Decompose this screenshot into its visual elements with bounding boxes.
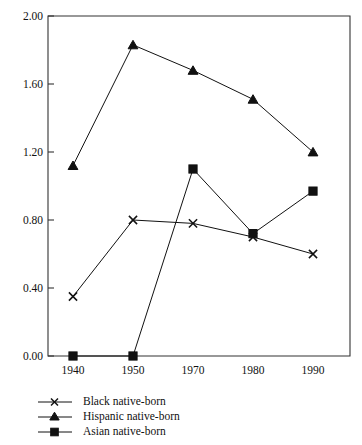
- data-point: [129, 352, 137, 360]
- data-point: [249, 230, 257, 238]
- x-axis-label-1950: 1950: [122, 364, 145, 376]
- square-marker-icon: [249, 230, 257, 238]
- legend-label-asian: Asian native-born: [83, 425, 166, 437]
- legend-label-hispanic: Hispanic native-born: [83, 410, 180, 423]
- x-axis-label-1990: 1990: [302, 364, 325, 376]
- square-marker-icon: [129, 352, 137, 360]
- square-marker-icon: [309, 187, 317, 195]
- line-chart-figure: 2.00 1.60 1.20 0.80 0.40 0.00 1940 1950 …: [0, 0, 362, 445]
- y-axis-label-1-60: 1.60: [23, 78, 43, 90]
- y-axis-label-0-80: 0.80: [23, 214, 43, 226]
- x-axis-label-1980: 1980: [242, 364, 265, 376]
- square-marker-icon: [69, 352, 77, 360]
- data-point: [69, 352, 77, 360]
- square-marker-icon: [189, 165, 197, 173]
- y-axis-label-1-20: 1.20: [23, 146, 43, 158]
- square-marker-icon: [51, 428, 59, 436]
- data-point: [189, 165, 197, 173]
- x-axis-label-1970: 1970: [182, 364, 205, 376]
- y-axis-label-0-00: 0.00: [23, 350, 43, 362]
- legend-label-black: Black native-born: [83, 395, 166, 407]
- y-axis-label-0-40: 0.40: [23, 282, 43, 294]
- x-axis-label-1940: 1940: [62, 364, 85, 376]
- y-axis-label-2-00: 2.00: [23, 10, 43, 22]
- data-point: [309, 187, 317, 195]
